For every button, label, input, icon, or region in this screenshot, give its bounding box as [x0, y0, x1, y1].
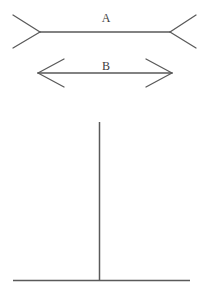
figure-b-label: B	[102, 59, 110, 73]
figure-b-arrowhead-bottom-left	[38, 73, 64, 87]
figure-a-fin-bottom-left	[13, 32, 40, 48]
figure-a-fin-top-left	[13, 15, 40, 32]
figure-a-fin-top-right	[170, 15, 196, 32]
figure-a-fin-bottom-right	[170, 32, 196, 48]
figure-b-arrowhead-top-right	[146, 59, 172, 73]
figure-a-label: A	[102, 11, 111, 25]
figure-t-group	[13, 122, 190, 281]
figure-a-group: A	[13, 11, 196, 48]
figure-b-group: B	[38, 59, 172, 87]
figure-b-arrowhead-top-left	[38, 59, 64, 73]
illusion-figure-canvas: A B	[0, 0, 208, 290]
figure-b-arrowhead-bottom-right	[146, 73, 172, 87]
